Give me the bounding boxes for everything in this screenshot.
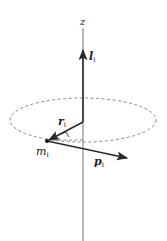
momentum-label: pi [94, 155, 105, 169]
angular-momentum-label: li [89, 50, 96, 64]
momentum-vector [47, 141, 127, 158]
angular-momentum-diagram: z li ri mi pi [0, 0, 167, 241]
position-label: ri [58, 115, 67, 129]
right-angle-marker [58, 132, 69, 137]
mass-point [45, 139, 49, 143]
mass-label: mi [36, 145, 49, 159]
z-axis-label: z [79, 16, 86, 27]
diagram-canvas: z li ri mi pi [0, 0, 167, 241]
